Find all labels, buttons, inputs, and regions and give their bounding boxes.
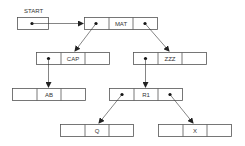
- tree-diagram: START MAT CAP ZZZ AB: [0, 0, 245, 146]
- edge-r1-x: [170, 95, 193, 124]
- node-r1: R1: [110, 89, 183, 101]
- edge-mat-cap: [75, 24, 96, 52]
- node-label: Q: [95, 128, 100, 134]
- node-x: X: [159, 125, 232, 137]
- node-label: X: [193, 128, 197, 134]
- node-label: MAT: [115, 21, 128, 27]
- node-zzz: ZZZ: [134, 53, 207, 65]
- node-mat: MAT: [85, 18, 158, 30]
- edges: [32, 24, 193, 124]
- node-label: ZZZ: [165, 56, 176, 62]
- node-cap: CAP: [37, 53, 110, 65]
- start-label: START: [24, 8, 43, 14]
- node-q: Q: [61, 125, 134, 137]
- node-label: CAP: [67, 56, 79, 62]
- edge-r1-q: [99, 95, 122, 124]
- edge-mat-zzz: [145, 24, 169, 52]
- node-label: R1: [142, 92, 150, 98]
- node-ab: AB: [13, 89, 86, 101]
- node-label: AB: [45, 92, 53, 98]
